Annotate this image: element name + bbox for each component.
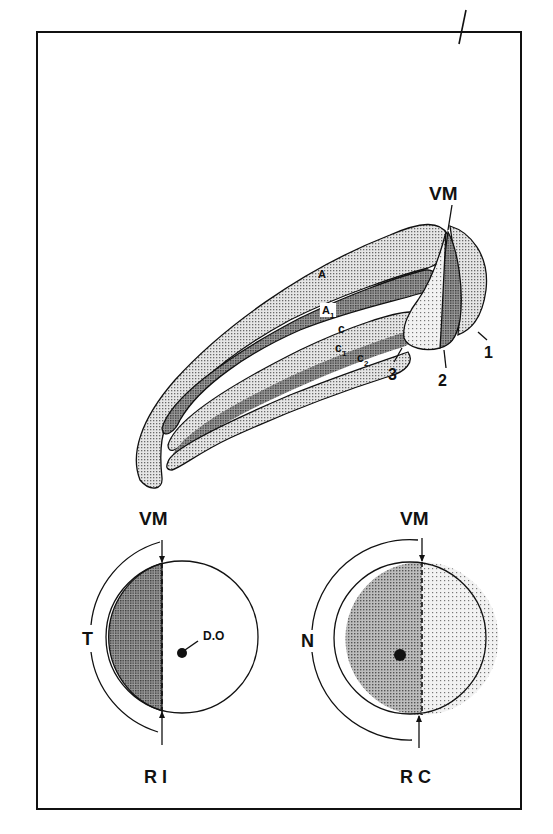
right-visual-field: VM N R C (301, 508, 498, 787)
label-vm-left: VM (139, 508, 168, 529)
arrow-2 (444, 350, 446, 368)
label-vm-right: VM (400, 508, 429, 529)
label-n: N (301, 631, 314, 651)
dot-do-right (394, 649, 406, 661)
label-c1-sub: 1 (342, 349, 347, 358)
label-c: c (338, 322, 345, 336)
label-a1: A (322, 304, 330, 316)
label-t: T (82, 629, 93, 649)
arrow-1 (478, 332, 487, 340)
label-do: D.O (203, 629, 224, 643)
label-c2-sub: 2 (364, 359, 369, 368)
label-3: 3 (388, 366, 397, 383)
temporal-field-shaded (109, 563, 162, 711)
label-c1: c (335, 341, 342, 355)
temporal-crescent-dotted (422, 562, 498, 715)
label-a1-sub: 1 (330, 311, 335, 320)
label-c2: c (357, 351, 364, 365)
vm-extension-line (459, 10, 466, 44)
label-ri: R I (144, 767, 167, 787)
figure-canvas: VM A A 1 c c 1 c 2 1 2 3 VM T D.O (0, 0, 553, 834)
label-rc: R C (400, 767, 431, 787)
left-visual-field: VM T D.O R I (82, 508, 258, 787)
label-vm-top: VM (429, 183, 458, 204)
visual-pathway-diagram: VM A A 1 c c 1 c 2 1 2 3 (136, 10, 493, 488)
label-2: 2 (438, 372, 447, 389)
label-1: 1 (484, 344, 493, 361)
label-a: A (318, 268, 326, 280)
